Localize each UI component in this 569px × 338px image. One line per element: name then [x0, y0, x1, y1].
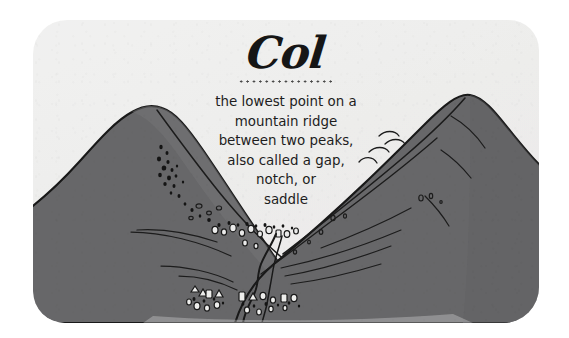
definition-line-5: notch, or: [171, 170, 401, 190]
definition-line-6: saddle: [171, 190, 401, 210]
page-title: Col: [244, 28, 327, 78]
definition-line-4: also called a gap,: [171, 151, 401, 171]
paper-card: Col the lowest point on a mountain ridge…: [33, 20, 539, 323]
definition-line-3: between two peaks,: [171, 131, 401, 151]
right-peak-shadow: [463, 95, 539, 323]
illustrated-definition-card-page: Col the lowest point on a mountain ridge…: [0, 0, 569, 338]
dotted-rule-divider: [238, 79, 334, 84]
definition-text: the lowest point on a mountain ridge bet…: [171, 92, 401, 210]
definition-line-2: mountain ridge: [171, 112, 401, 132]
definition-line-1: the lowest point on a: [171, 92, 401, 112]
title-block: Col: [33, 28, 539, 84]
